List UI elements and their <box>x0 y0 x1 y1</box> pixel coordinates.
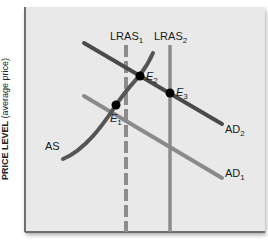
as-label: AS <box>45 140 60 152</box>
chart-svg: LRAS1 LRAS2 E2 E3 E1 AS AD2 AD1 <box>0 0 268 244</box>
e3-point <box>166 89 175 98</box>
y-axis-label: PRICE LEVEL (average price) <box>0 54 14 184</box>
e2-point <box>136 72 145 81</box>
e1-point <box>112 101 121 110</box>
y-axis-label-main: PRICE LEVEL <box>0 121 10 180</box>
plot-area <box>25 7 265 232</box>
chart-frame: LRAS1 LRAS2 E2 E3 E1 AS AD2 AD1 PRICE LE… <box>0 0 268 244</box>
y-axis-label-sub: (average price) <box>0 58 10 119</box>
